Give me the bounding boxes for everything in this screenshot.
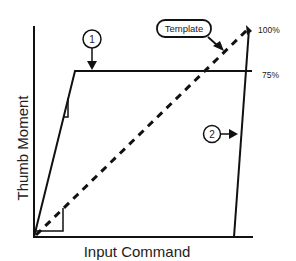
- callout-1-label: 1: [89, 34, 95, 45]
- thumb-moment-diagram: 1 2 Template 100% 75% Thumb Moment Input…: [0, 0, 296, 261]
- level-75-label: 75%: [262, 70, 279, 80]
- y-axis-label: Thumb Moment: [14, 95, 31, 201]
- template-callout-label: Template: [165, 23, 204, 34]
- x-axis-label: Input Command: [84, 243, 191, 260]
- callout-2-label: 2: [209, 129, 215, 140]
- callout-1-arrowhead: [87, 61, 97, 70]
- level-100-label: 100%: [258, 25, 280, 35]
- saturation-curve: [34, 71, 252, 237]
- callout-2-arrowhead: [229, 129, 238, 139]
- release-line: [234, 29, 249, 237]
